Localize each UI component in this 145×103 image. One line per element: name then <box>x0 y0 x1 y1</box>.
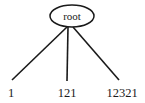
leaf-label-1: 1 <box>8 86 14 100</box>
tree-diagram-canvas: root 1 121 12321 <box>0 0 145 103</box>
edge-root-to-leaf-1 <box>12 27 67 80</box>
root-node-label: root <box>63 10 81 22</box>
edge-root-to-leaf-12321 <box>73 27 119 80</box>
leaf-label-121: 121 <box>58 86 77 100</box>
tree-diagram: root 1 121 12321 <box>0 0 145 103</box>
edge-root-to-leaf-121 <box>67 27 68 81</box>
leaf-label-12321: 12321 <box>106 86 137 100</box>
